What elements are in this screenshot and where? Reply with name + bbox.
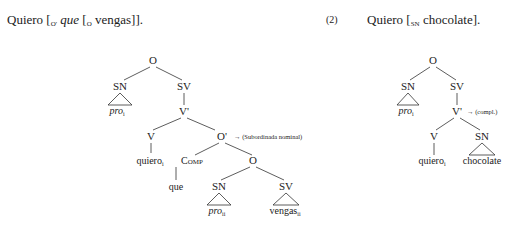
branch [436, 67, 456, 80]
node-vbar: V' [179, 105, 189, 117]
leaf-que: que [169, 181, 184, 192]
triangle [108, 93, 132, 105]
annotation-compl: → (compl.) [467, 108, 497, 116]
node-v: V [430, 130, 438, 142]
node-o: O [149, 54, 157, 66]
node-comp: Comp [181, 155, 203, 166]
node-sn-embedded: SN [212, 180, 226, 192]
leaf-pro: proi [397, 105, 414, 117]
node-sn: SN [113, 80, 127, 92]
leaf-quiero: quieroi [136, 155, 164, 167]
node-vbar: V' [452, 105, 462, 117]
branch [256, 167, 284, 180]
triangle [207, 193, 231, 205]
branch [153, 118, 181, 130]
branch [460, 118, 480, 130]
node-o: O [429, 54, 437, 66]
branch [124, 67, 150, 80]
triangle [273, 193, 299, 205]
node-v: V [147, 130, 155, 142]
branch [195, 143, 219, 155]
syntax-trees: O SN SV proi V' V O' → (Subordinada nomi… [0, 0, 521, 226]
leaf-pro-embedded: proii [208, 205, 226, 217]
branch [221, 167, 250, 180]
node-sn-object: SN [475, 130, 489, 142]
node-obar: O' [217, 130, 227, 142]
leaf-quiero: quieroi [418, 155, 446, 167]
annotation-subordinada: → (Subordinada nominal) [234, 133, 302, 141]
node-sn: SN [401, 80, 415, 92]
leaf-vengas: vengasii [269, 205, 300, 217]
leaf-chocolate: chocolate [463, 155, 502, 166]
branch [436, 118, 454, 130]
branch [410, 67, 430, 80]
triangle [469, 143, 495, 155]
node-sv-embedded: SV [279, 180, 293, 192]
node-sv: SV [450, 80, 464, 92]
node-sv: SV [177, 80, 191, 92]
tree-1: O SN SV proi V' V O' → (Subordinada nomi… [108, 54, 302, 217]
leaf-pro: proi [108, 105, 125, 117]
branch [187, 118, 215, 130]
branch [156, 67, 182, 80]
triangle [397, 93, 419, 105]
branch [225, 143, 252, 155]
tree-2: O SN SV proi V' → (compl.) V SN quieroi … [397, 54, 502, 167]
node-o-embedded: O [249, 154, 257, 166]
